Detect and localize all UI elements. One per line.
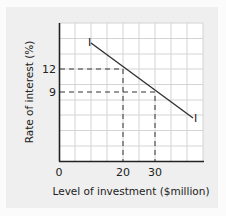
y-tick-12: 12	[42, 63, 56, 76]
investment-demand-chart: I I 12 9 0 20 30 Level of investment ($m…	[0, 0, 226, 216]
x-tick-0: 0	[56, 166, 63, 179]
curve-start-label: I	[88, 36, 91, 49]
x-tick-30: 30	[148, 166, 162, 179]
y-tick-9: 9	[49, 86, 56, 99]
x-tick-20: 20	[116, 166, 130, 179]
curve-end-label: I	[194, 112, 197, 125]
x-axis-label: Level of investment ($million)	[53, 185, 210, 197]
y-axis-label: Rate of interest (%)	[23, 41, 35, 144]
